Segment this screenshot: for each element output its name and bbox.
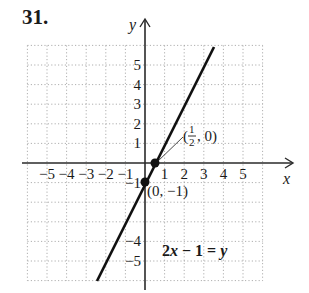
y-tick-label: −5	[125, 253, 141, 269]
svg-text:, 0): , 0)	[197, 128, 217, 145]
x-tick-label: 1	[161, 166, 169, 182]
y-tick-label: 1	[134, 135, 142, 151]
equation-label: 2x − 1 = y	[162, 242, 228, 260]
x-tick-label: −4	[59, 166, 75, 182]
y-tick-label: −4	[125, 233, 141, 249]
x-tick-label: −2	[98, 166, 114, 182]
x-axis-label: x	[282, 170, 290, 187]
x-tick-label: 5	[239, 166, 247, 182]
y-axis-label: y	[127, 16, 137, 34]
point-y-intercept-label: (0, −1)	[147, 183, 188, 200]
x-tick-label: −5	[39, 166, 55, 182]
line-graph: x y −5−4−3−2−11234554321−1−4−5 ( 1 2 , 0…	[0, 0, 309, 293]
svg-text:1: 1	[189, 123, 195, 135]
y-tick-label: 3	[134, 96, 142, 112]
x-tick-label: −3	[78, 166, 94, 182]
point-x-intercept-label: ( 1 2 , 0)	[183, 123, 217, 148]
x-tick-label: 3	[200, 166, 208, 182]
svg-text:(: (	[183, 128, 188, 145]
y-tick-label: −1	[125, 175, 141, 191]
y-tick-label: 2	[134, 116, 142, 132]
x-tick-label: 4	[220, 166, 228, 182]
point-x-intercept	[151, 159, 160, 168]
y-tick-label: 5	[134, 57, 142, 73]
leader-line	[156, 137, 183, 163]
axes	[22, 19, 293, 290]
x-tick-label: 2	[180, 166, 188, 182]
svg-text:2: 2	[189, 136, 195, 148]
y-tick-label: 4	[134, 77, 142, 93]
